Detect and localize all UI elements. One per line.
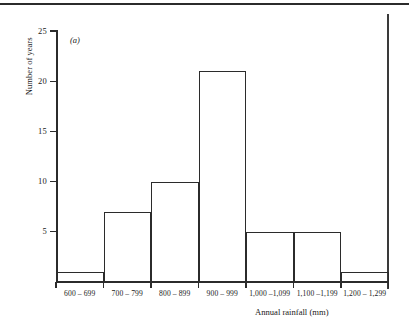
histogram-bar [151,182,199,282]
x-axis-tick-label: 1,000 –1,099 [246,290,294,298]
histogram-bar [199,71,247,282]
x-axis-tick [103,282,105,288]
x-axis-tick-label: 1,200 – 1,299 [341,290,389,298]
x-axis-tick [150,282,152,288]
x-axis-tick [388,282,390,288]
x-axis-tick-label: 900 – 999 [199,290,247,298]
histogram-bar [246,232,294,282]
y-axis-tick [50,131,58,132]
y-axis-title: Number of years [25,11,34,121]
x-axis-tick-label: 700 – 799 [104,290,152,298]
x-axis-tick-label: 600 – 699 [56,290,104,298]
x-axis-tick-label: 1,100 –1,199 [294,290,342,298]
y-axis-tick [50,81,58,82]
panel-label: (a) [70,36,80,45]
histogram-bar [56,272,104,282]
y-axis-tick-label: 10 [7,177,47,186]
x-axis-title: Annual rainfall (mm) [255,308,329,317]
histogram-figure: (a) 252015105 600 – 699700 – 799800 – 89… [0,0,409,332]
histogram-bar [341,272,389,282]
histogram-bar [294,232,342,282]
x-axis-tick [340,282,342,288]
y-axis-tick [50,231,58,232]
y-axis-tick-label: 15 [7,127,47,136]
x-axis-tick [245,282,247,288]
x-axis-tick [198,282,200,288]
y-axis-tick-label: 5 [7,227,47,236]
y-axis-line [56,30,58,283]
y-axis-tick [50,181,58,182]
x-axis-tick [293,282,295,288]
x-axis-tick [55,282,57,288]
histogram-bar [104,212,152,282]
x-axis-tick-label: 800 – 899 [151,290,199,298]
y-axis-tick [50,30,58,31]
